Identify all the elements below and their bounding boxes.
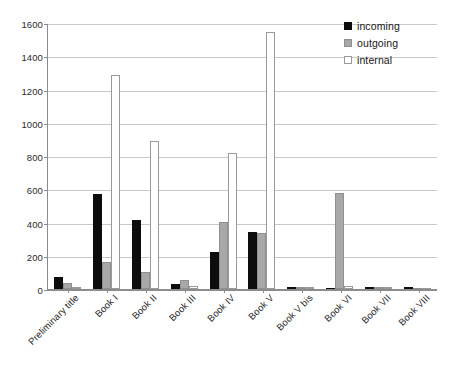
white-square-icon [344, 56, 352, 64]
x-axis-tick-label: Book IV [204, 292, 236, 324]
x-axis-tick-label: Book III [166, 292, 197, 323]
gray-square-icon [344, 39, 352, 47]
bar-group [398, 24, 437, 289]
bar-group [243, 24, 282, 289]
bar-incoming [404, 287, 413, 289]
y-axis-tick-label: 600 [27, 185, 43, 196]
y-axis-tick-label: 1400 [21, 52, 43, 63]
legend-item-incoming: incoming [344, 20, 400, 32]
bar-group [126, 24, 165, 289]
bar-incoming [54, 277, 63, 289]
bar-incoming [132, 220, 141, 289]
legend-label: internal [357, 54, 392, 66]
bar-outgoing [257, 233, 266, 289]
bar-internal [344, 286, 353, 289]
bar-incoming [248, 232, 257, 289]
x-axis-tick-label: Book VI [321, 292, 353, 324]
x-axis-tick-label: Book I [92, 292, 119, 319]
x-axis-tick-label: Book VIII [396, 292, 432, 328]
x-axis-tick-label: Book V bis [274, 292, 315, 333]
bar-group [204, 24, 243, 289]
bar-outgoing [219, 222, 228, 289]
bar-internal [72, 287, 81, 289]
bar-internal [383, 287, 392, 289]
x-axis-tick-label: Book V [245, 292, 275, 322]
bar-group [87, 24, 126, 289]
bar-incoming [171, 284, 180, 289]
chart-legend: incoming outgoing internal [344, 20, 400, 66]
legend-label: incoming [357, 20, 400, 32]
bar-group [165, 24, 204, 289]
bar-group [48, 24, 87, 289]
y-axis-tick-label: 0 [38, 285, 43, 296]
bar-internal [189, 286, 198, 289]
bar-incoming [210, 252, 219, 289]
bar-internal [111, 75, 120, 289]
bar-outgoing [180, 280, 189, 289]
y-axis-tick-label: 1200 [21, 85, 43, 96]
x-axis-tick-label: Book II [129, 292, 158, 321]
x-axis-tick-label: Preliminary title [25, 292, 80, 347]
bar-internal [422, 288, 431, 289]
legend-item-internal: internal [344, 54, 400, 66]
bar-internal [228, 153, 237, 289]
bar-outgoing [102, 262, 111, 289]
y-axis-tick-mark [44, 290, 48, 291]
bar-incoming [326, 288, 335, 289]
y-axis-tick-label: 1600 [21, 19, 43, 30]
bar-internal [266, 32, 275, 289]
x-axis-tick-label: Book VII [359, 292, 393, 326]
bar-outgoing [335, 193, 344, 289]
y-axis-tick-label: 800 [27, 152, 43, 163]
black-square-icon [344, 22, 352, 30]
bar-outgoing [141, 272, 150, 289]
legend-item-outgoing: outgoing [344, 37, 400, 49]
y-axis-tick-label: 400 [27, 218, 43, 229]
bar-incoming [287, 287, 296, 289]
bar-incoming [93, 194, 102, 289]
y-axis-tick-label: 1000 [21, 118, 43, 129]
x-axis-labels: Preliminary titleBook IBook IIBook IIIBo… [47, 292, 437, 368]
bar-internal [150, 141, 159, 289]
legend-label: outgoing [357, 37, 398, 49]
bar-incoming [365, 287, 374, 289]
bar-internal [305, 287, 314, 289]
y-axis-tick-label: 200 [27, 251, 43, 262]
bar-chart: 02004006008001000120014001600 Preliminar… [0, 0, 455, 369]
bar-group [281, 24, 320, 289]
